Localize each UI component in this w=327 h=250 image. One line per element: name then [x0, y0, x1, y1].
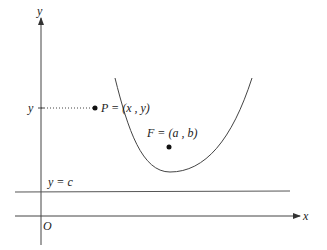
- parabola-curve: [115, 78, 252, 172]
- parabola-diagram: y x O y P = (x , y) F = (a , b) y = c: [0, 0, 327, 250]
- focus-point: [167, 145, 172, 150]
- point-p-label: P = (x , y): [100, 101, 150, 115]
- point-p: [93, 106, 98, 111]
- directrix-line: [15, 191, 290, 192]
- y-tick-label: y: [27, 101, 34, 115]
- origin-label: O: [43, 219, 52, 233]
- y-axis-label: y: [36, 4, 43, 18]
- directrix-label: y = c: [47, 175, 73, 189]
- focus-label: F = (a , b): [146, 126, 197, 140]
- x-axis-label: x: [302, 209, 309, 223]
